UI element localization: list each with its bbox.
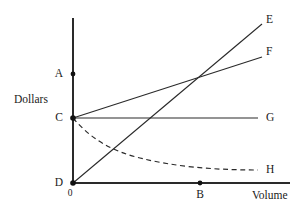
x-axis-title: Volume: [252, 189, 288, 201]
point-marker-c: [70, 115, 76, 121]
y-axis-title: Dollars: [14, 93, 48, 105]
endpoint-label-e: E: [266, 13, 273, 25]
point-marker-b: [198, 181, 203, 186]
point-label-d: D: [55, 176, 63, 188]
chart-canvas: Dollars Volume 0 A C D B E F G H: [0, 0, 303, 210]
point-label-a: A: [55, 67, 64, 79]
origin-label: 0: [68, 188, 73, 198]
cost-volume-chart: Dollars Volume 0 A C D B E F G H: [0, 0, 303, 210]
endpoint-label-h: H: [266, 163, 274, 175]
chart-background: [0, 0, 303, 210]
point-marker-a: [71, 72, 76, 77]
point-marker-d: [70, 180, 76, 186]
point-label-b: B: [196, 188, 204, 200]
endpoint-label-f: F: [266, 45, 272, 57]
endpoint-label-g: G: [266, 111, 274, 123]
point-label-c: C: [55, 111, 63, 123]
